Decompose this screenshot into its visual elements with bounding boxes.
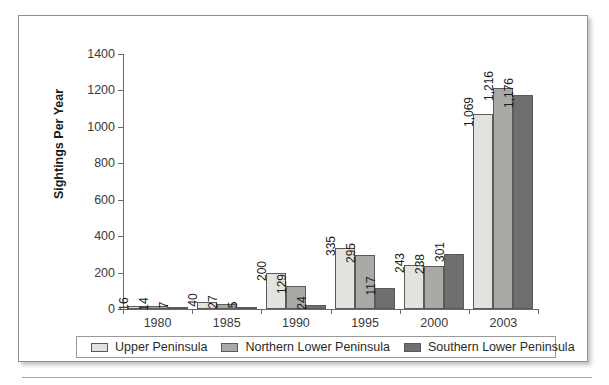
bar-group-bars: 16147 (128, 39, 188, 309)
legend-item[interactable]: Northern Lower Peninsula (221, 340, 390, 354)
y-axis-tick-mark (118, 90, 123, 91)
bar[interactable]: 7 (168, 307, 188, 309)
x-axis-tick-mark (400, 309, 401, 314)
bar-group-bars: 243238301 (404, 39, 464, 309)
y-axis-tick-label: 400 (94, 229, 115, 243)
bar[interactable]: 1,176 (513, 95, 533, 309)
bar[interactable]: 24 (306, 305, 326, 309)
legend-item[interactable]: Southern Lower Peninsula (404, 340, 575, 354)
y-axis-tick-label: 1000 (87, 120, 115, 134)
bar-group-bars: 40275 (197, 39, 257, 309)
x-axis-category-label: 1995 (331, 316, 400, 330)
bar-value-label: 40 (193, 293, 207, 306)
bar-value-label: 129 (282, 274, 296, 294)
bar-value-label: 295 (351, 243, 365, 263)
legend-color-swatch (91, 343, 108, 352)
legend-item-label: Northern Lower Peninsula (245, 340, 390, 354)
bar-value-label: 117 (371, 276, 385, 295)
chart-legend: Upper PeninsulaNorthern Lower PeninsulaS… (76, 336, 556, 358)
x-axis-category-label: 2003 (469, 316, 538, 330)
bar-group-bars: 1,0691,2161,176 (473, 39, 533, 309)
y-axis-tick-mark (118, 236, 123, 237)
bar-value-label: 1,176 (509, 78, 523, 108)
y-axis-tick-label: 0 (108, 302, 115, 316)
bar[interactable]: 301 (444, 254, 464, 309)
x-axis-tick-mark (331, 309, 332, 314)
x-axis-tick-mark (123, 309, 124, 314)
legend-color-swatch (404, 343, 421, 352)
y-axis-tick-label: 600 (94, 193, 115, 207)
bar-value-label: 301 (440, 242, 454, 262)
y-axis-tick-label: 800 (94, 156, 115, 170)
bar[interactable]: 117 (375, 288, 395, 309)
bar-value-label: 335 (331, 236, 345, 256)
x-axis-tick-mark (469, 309, 470, 314)
bar[interactable]: 1,069 (473, 114, 493, 309)
bar[interactable]: 1,216 (493, 88, 513, 309)
y-axis-tick-label: 1400 (87, 47, 115, 61)
bar-group: 243238301 (404, 39, 464, 309)
bar-group: 1,0691,2161,176 (473, 39, 533, 309)
bar-group-bars: 335295117 (335, 39, 395, 309)
x-axis-category-label: 1990 (261, 316, 330, 330)
y-axis-tick-mark (118, 273, 123, 274)
bar-group: 335295117 (335, 39, 395, 309)
bar-group: 16147 (128, 39, 188, 309)
x-axis-category-label: 2000 (400, 316, 469, 330)
bar-value-label: 24 (302, 296, 316, 309)
bar-value-label: 7 (164, 302, 178, 309)
y-axis-tick-label: 200 (94, 266, 115, 280)
bar-value-label: 1,069 (469, 97, 483, 127)
chart-figure-frame: Sightings Per Year 020040060080010001200… (18, 15, 588, 362)
legend-item[interactable]: Upper Peninsula (91, 340, 207, 354)
y-axis-tick-mark (118, 54, 123, 55)
y-axis-tick-mark (118, 200, 123, 201)
y-axis-title: Sightings Per Year (52, 89, 66, 199)
y-axis-line (123, 54, 124, 309)
bar-value-label: 16 (124, 297, 138, 310)
bar-value-label: 5 (233, 302, 247, 309)
x-axis-tick-mark (538, 309, 539, 314)
legend-color-swatch (221, 343, 238, 352)
x-axis-tick-mark (192, 309, 193, 314)
legend-item-label: Upper Peninsula (115, 340, 207, 354)
bar-group-bars: 20012924 (266, 39, 326, 309)
x-axis-category-label: 1985 (192, 316, 261, 330)
y-axis-tick-mark (118, 127, 123, 128)
y-axis-tick-mark (118, 163, 123, 164)
bar-group: 40275 (197, 39, 257, 309)
bar[interactable]: 5 (237, 307, 257, 309)
legend-item-label: Southern Lower Peninsula (428, 340, 575, 354)
bar-value-label: 200 (262, 261, 276, 281)
x-axis-tick-mark (261, 309, 262, 314)
bar-value-label: 14 (144, 298, 158, 311)
plot-area: 0200400600800100012001400 16147402752001… (123, 39, 538, 309)
bar[interactable]: 238 (424, 266, 444, 309)
bar-group: 20012924 (266, 39, 326, 309)
page-divider-rule (22, 377, 592, 378)
bar-value-label: 27 (213, 295, 227, 308)
y-axis-tick-label: 1200 (87, 83, 115, 97)
x-axis-category-label: 1980 (123, 316, 192, 330)
